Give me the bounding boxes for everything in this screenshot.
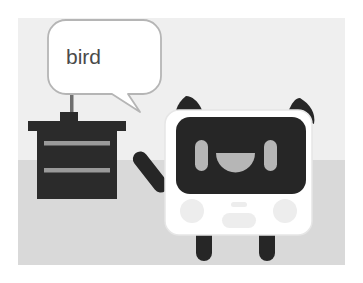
desk xyxy=(28,112,126,199)
robot-right-eye xyxy=(264,140,277,171)
robot-right-cheek xyxy=(273,199,297,223)
illustration-frame: bird xyxy=(0,0,363,283)
scene-contents: bird xyxy=(18,18,345,265)
scene-canvas: bird xyxy=(0,0,363,283)
robot-left-cheek xyxy=(180,199,204,223)
robot-left-eye xyxy=(195,140,208,171)
desk-drawer-line-bottom xyxy=(44,168,110,173)
robot-chin-panel xyxy=(222,213,256,228)
desk-body xyxy=(37,129,117,199)
desk-drawer-line-top xyxy=(44,141,110,146)
speech-bubble-text: bird xyxy=(66,45,101,68)
robot-small-pill xyxy=(231,202,247,207)
